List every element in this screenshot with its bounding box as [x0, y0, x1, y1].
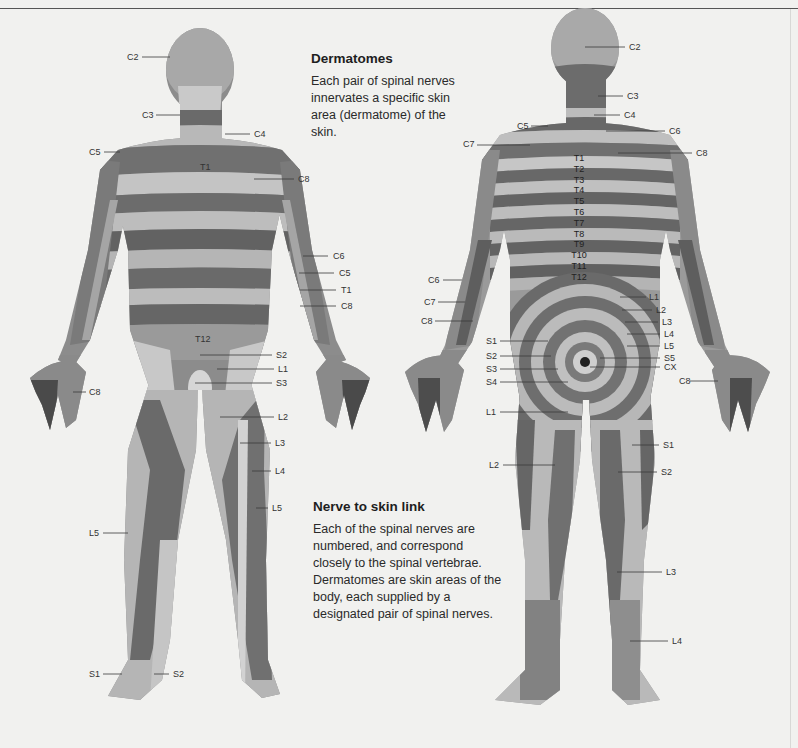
front-inline-label-t12: T12: [195, 334, 211, 344]
back-label-l1: L1: [486, 407, 496, 417]
back-label-c6: C6: [428, 275, 440, 285]
front-label-l5: L5: [272, 503, 282, 513]
back-label-l2: L2: [489, 460, 499, 470]
back-label-s1: S1: [663, 440, 674, 450]
front-inline-label-t1: T1: [200, 162, 211, 172]
front-label-c8: C8: [341, 301, 353, 311]
back-label-cx: CX: [664, 362, 677, 372]
front-label-c6: C6: [333, 251, 345, 261]
front-label-c8: C8: [89, 387, 101, 397]
front-label-s1: S1: [89, 669, 100, 679]
front-label-c8: C8: [298, 174, 310, 184]
spine-label-t10: T10: [571, 250, 587, 260]
back-label-c8: C8: [421, 316, 433, 326]
front-label-c5: C5: [339, 268, 351, 278]
front-label-c5: C5: [89, 147, 101, 157]
back-label-s2: S2: [661, 467, 672, 477]
back-label-l5: L5: [664, 341, 674, 351]
back-label-c7: C7: [424, 297, 436, 307]
back-label-s2: S2: [486, 351, 497, 361]
front-label-l3: L3: [275, 438, 285, 448]
front-label-c2: C2: [127, 52, 139, 62]
back-label-l2: L2: [656, 305, 666, 315]
spine-label-t9: T9: [574, 239, 585, 249]
spine-label-t1: T1: [574, 153, 585, 163]
front-label-c4: C4: [254, 129, 266, 139]
spine-label-t2: T2: [574, 164, 585, 174]
back-label-l3: L3: [666, 567, 676, 577]
front-label-s2: S2: [276, 350, 287, 360]
spine-label-t6: T6: [574, 207, 585, 217]
front-label-l4: L4: [275, 466, 285, 476]
back-label-l1: L1: [649, 292, 659, 302]
front-label-l1: L1: [278, 364, 288, 374]
spine-label-t11: T11: [572, 261, 587, 271]
front-label-c3: C3: [142, 110, 154, 120]
front-label-s2: S2: [173, 669, 184, 679]
front-label-l2: L2: [278, 412, 288, 422]
spine-label-t3: T3: [574, 175, 585, 185]
back-label-c5: C5: [517, 121, 529, 131]
front-label-t1: T1: [341, 285, 352, 295]
spine-label-t12: T12: [571, 272, 587, 282]
spine-label-t5: T5: [574, 196, 585, 206]
front-label-s3: S3: [276, 378, 287, 388]
back-label-c7: C7: [463, 139, 475, 149]
back-label-s1: S1: [486, 336, 497, 346]
back-label-l3: L3: [662, 317, 672, 327]
front-label-l5: L5: [89, 528, 99, 538]
back-label-s3: S3: [486, 364, 497, 374]
back-label-s4: S4: [486, 377, 497, 387]
spine-label-t8: T8: [574, 229, 585, 239]
spine-label-t4: T4: [574, 185, 585, 195]
back-label-c6: C6: [669, 126, 681, 136]
back-label-c3: C3: [627, 91, 639, 101]
back-label-c8: C8: [696, 148, 708, 158]
back-label-c8: C8: [679, 376, 691, 386]
back-label-l4: L4: [664, 329, 674, 339]
back-label-c4: C4: [624, 110, 636, 120]
back-label-c2: C2: [629, 42, 641, 52]
back-label-l4: L4: [672, 636, 682, 646]
spine-label-t7: T7: [574, 218, 585, 228]
